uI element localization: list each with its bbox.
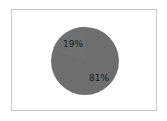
data-label-19: 19% [63, 39, 83, 49]
pie-chart: 19% 81% [0, 0, 167, 121]
data-label-81: 81% [89, 73, 109, 83]
